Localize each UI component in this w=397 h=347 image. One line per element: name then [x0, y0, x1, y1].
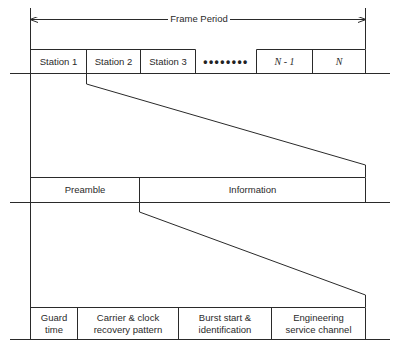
expand-diagonal-2	[140, 212, 366, 295]
burst-information: Information	[140, 178, 365, 202]
slot-ellipsis: ••••••••	[198, 56, 254, 70]
preamble-guard-time: Guard time	[31, 308, 77, 339]
preamble-burst-start-identification: Burst start & identification	[179, 308, 271, 339]
slot-station-3: Station 3	[141, 50, 195, 73]
slot-station-1: Station 1	[31, 50, 86, 73]
slot-station-2: Station 2	[87, 50, 140, 73]
frame-period-label: Frame Period	[168, 12, 230, 26]
preamble-carrier-clock-recovery: Carrier & clock recovery pattern	[78, 308, 178, 339]
slot-n-minus-1: N - 1	[257, 50, 312, 73]
preamble-engineering-service-channel: Engineering service channel	[272, 308, 365, 339]
burst-preamble: Preamble	[31, 178, 139, 202]
slot-n: N	[313, 50, 365, 73]
expand-diagonal-1	[87, 84, 366, 165]
